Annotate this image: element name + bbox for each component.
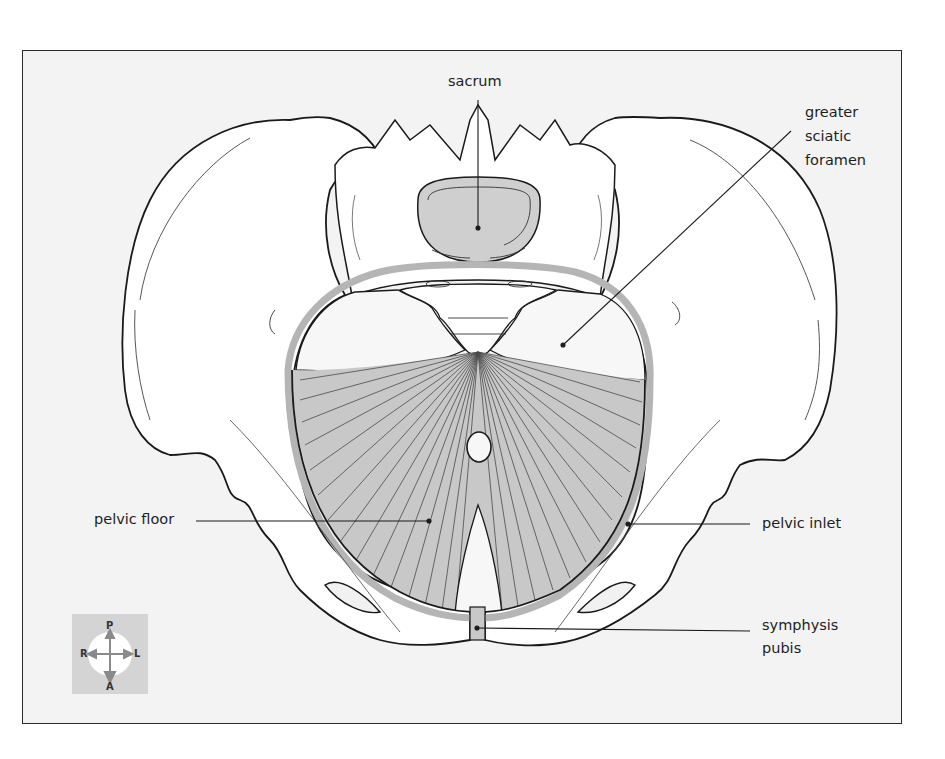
symphysis-pubis xyxy=(470,607,485,640)
compass-right: R xyxy=(80,647,88,660)
sacral-promontory xyxy=(418,177,540,262)
label-greater-sciatic-foramen: greater sciatic foramen xyxy=(805,100,866,172)
label-sacrum: sacrum xyxy=(448,72,502,91)
compass-posterior: P xyxy=(106,619,113,632)
anal-hiatus xyxy=(467,432,491,462)
label-pelvic-floor: pelvic floor xyxy=(94,510,174,529)
label-symphysis-pubis: symphysis pubis xyxy=(762,614,838,660)
compass-anterior: A xyxy=(106,680,114,693)
orientation-compass: P A R L xyxy=(72,614,148,694)
label-pelvic-inlet: pelvic inlet xyxy=(762,514,841,533)
compass-left: L xyxy=(134,647,140,660)
